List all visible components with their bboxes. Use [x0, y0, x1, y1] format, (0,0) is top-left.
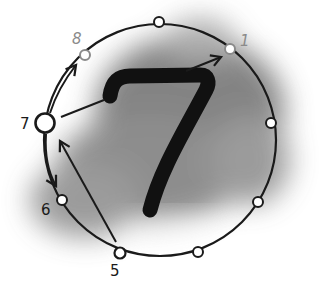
point-5	[115, 248, 126, 259]
point-2	[266, 118, 276, 128]
point-4	[193, 247, 203, 257]
label-5: 5	[110, 262, 120, 280]
diagram-canvas: 8 1 7 6 5	[0, 0, 320, 298]
cloud-shading	[30, 18, 290, 238]
point-6	[57, 195, 67, 205]
point-9	[154, 17, 164, 27]
enneagram-seven-diagram: 8 1 7 6 5	[0, 0, 320, 298]
point-8	[80, 50, 90, 60]
label-1: 1	[240, 32, 250, 50]
label-7: 7	[20, 115, 30, 133]
point-3	[253, 197, 263, 207]
point-1	[225, 44, 235, 54]
point-7	[36, 114, 55, 133]
label-6: 6	[41, 201, 51, 219]
label-8: 8	[72, 30, 82, 48]
